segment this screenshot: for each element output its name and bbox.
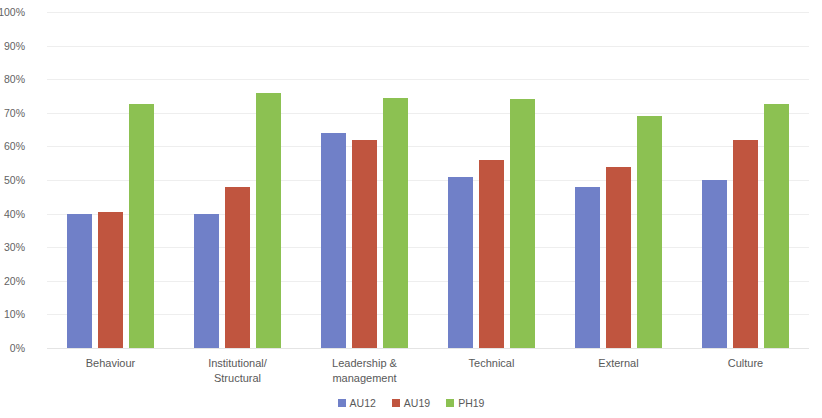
bar-au19-5[interactable] [733,140,758,348]
legend-item-ph19[interactable]: PH19 [446,398,484,409]
bar-au12-0[interactable] [67,214,92,348]
bar-au19-0[interactable] [98,212,123,348]
bar-au19-3[interactable] [479,160,504,348]
bar-group [428,12,555,348]
bars [174,12,301,348]
y-axis-tick-label: 10% [0,309,25,320]
x-axis-label: Behaviour [47,356,174,386]
bar-group [47,12,174,348]
bar-au12-3[interactable] [448,177,473,348]
x-axis-label: Leadership & management [301,356,428,386]
gridline [47,348,809,349]
bar-ph19-0[interactable] [129,104,154,348]
bar-au12-2[interactable] [321,133,346,348]
bar-au19-1[interactable] [225,187,250,348]
bars [47,12,174,348]
bar-chart: 100%90%80%70%60%50%40%30%20%10%0% Behavi… [0,0,822,418]
legend-item-au12[interactable]: AU12 [338,398,376,409]
legend-swatch-icon [338,399,346,407]
legend-swatch-icon [446,399,454,407]
y-axis-tick-label: 20% [0,276,25,287]
bars [301,12,428,348]
legend-label: AU12 [350,398,376,409]
bar-au12-5[interactable] [702,180,727,348]
y-axis-tick-label: 90% [0,41,25,52]
bar-ph19-3[interactable] [510,99,535,348]
chart-legend: AU12AU19PH19 [0,398,822,409]
x-axis-label: External [555,356,682,386]
y-axis-tick-label: 70% [0,108,25,119]
y-axis-tick-label: 30% [0,242,25,253]
y-axis-tick-label: 80% [0,74,25,85]
x-axis-label: Institutional/ Structural [174,356,301,386]
y-axis-tick-label: 60% [0,141,25,152]
x-axis-label: Technical [428,356,555,386]
bar-au19-4[interactable] [606,167,631,348]
bar-au19-2[interactable] [352,140,377,348]
bar-au12-1[interactable] [194,214,219,348]
bar-ph19-1[interactable] [256,93,281,348]
y-axis-tick-label: 0% [0,343,25,354]
legend-label: AU19 [404,398,430,409]
bars [682,12,809,348]
bar-group [555,12,682,348]
bar-group [174,12,301,348]
y-axis-tick-label: 50% [0,175,25,186]
bars [555,12,682,348]
bar-group [301,12,428,348]
legend-swatch-icon [392,399,400,407]
bar-groups [47,12,809,348]
legend-item-au19[interactable]: AU19 [392,398,430,409]
bar-au12-4[interactable] [575,187,600,348]
y-axis-tick-label: 40% [0,209,25,220]
bars [428,12,555,348]
bar-group [682,12,809,348]
bar-ph19-2[interactable] [383,98,408,348]
bar-ph19-4[interactable] [637,116,662,348]
bar-ph19-5[interactable] [764,104,789,348]
legend-label: PH19 [458,398,484,409]
y-axis-tick-label: 100% [0,7,25,18]
plot-area: 100%90%80%70%60%50%40%30%20%10%0% [47,12,809,348]
x-axis-label: Culture [682,356,809,386]
x-axis-category-labels: BehaviourInstitutional/ StructuralLeader… [47,356,809,386]
